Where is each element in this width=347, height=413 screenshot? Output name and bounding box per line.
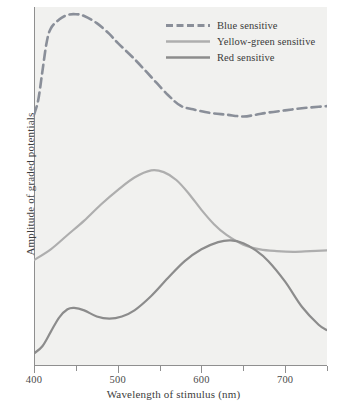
- x-tick-label-500: 500: [110, 374, 126, 385]
- legend-swatch-icon: [166, 52, 210, 63]
- series-line-yellow-green-sensitive: [34, 170, 327, 260]
- x-axis-title: Wavelength of stimulus (nm): [0, 388, 347, 400]
- legend-label: Blue sensitive: [217, 20, 278, 31]
- x-tick-label-700: 700: [277, 374, 293, 385]
- legend-label: Yellow-green sensitive: [217, 36, 315, 47]
- y-axis-title: Amplitude of graded potentials: [24, 64, 36, 304]
- x-tick-700: [285, 366, 286, 373]
- x-tick-450: [76, 366, 77, 371]
- x-tick-750: [327, 366, 328, 371]
- legend-swatch-icon: [166, 20, 210, 31]
- x-tick-550: [160, 366, 161, 371]
- legend-label: Red sensitive: [217, 52, 275, 63]
- legend-swatch-icon: [166, 36, 210, 47]
- spectral-sensitivity-figure: 400500600700 Wavelength of stimulus (nm)…: [0, 0, 347, 413]
- legend: Blue sensitiveYellow-green sensitiveRed …: [166, 18, 326, 66]
- x-tick-600: [201, 366, 202, 373]
- x-tick-label-600: 600: [193, 374, 209, 385]
- x-tick-400: [34, 366, 35, 373]
- x-tick-500: [118, 366, 119, 373]
- legend-item-red-sensitive: Red sensitive: [166, 50, 326, 64]
- legend-item-blue-sensitive: Blue sensitive: [166, 18, 326, 32]
- x-tick-650: [243, 366, 244, 371]
- x-tick-label-400: 400: [26, 374, 42, 385]
- legend-item-yellow-green-sensitive: Yellow-green sensitive: [166, 34, 326, 48]
- series-line-red-sensitive: [34, 240, 327, 353]
